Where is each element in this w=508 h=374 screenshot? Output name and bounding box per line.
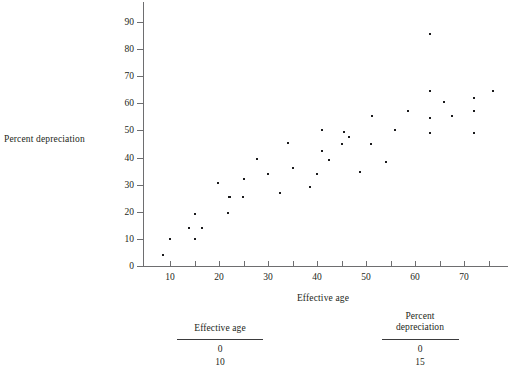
data-point [370, 143, 372, 145]
data-point [162, 254, 164, 256]
x-axis-label: Effective age [248, 293, 398, 303]
scatter-plot-figure: Percent depreciation Effective age 01020… [0, 0, 508, 310]
data-point [242, 196, 244, 198]
data-point [473, 132, 475, 134]
data-point [451, 115, 453, 117]
scatter-points-layer [0, 0, 508, 280]
data-point [407, 110, 409, 112]
data-point [279, 192, 281, 194]
table-rule-percent-depreciation [382, 339, 459, 340]
data-point [194, 238, 196, 240]
data-point [321, 150, 323, 152]
data-point [394, 129, 396, 131]
data-point [309, 186, 311, 188]
data-point [385, 161, 387, 163]
data-point [343, 131, 345, 133]
data-point [429, 90, 431, 92]
data-point [473, 110, 475, 112]
table-column-cells-effective-age: 010 [160, 343, 280, 368]
table-column-header-effective-age: Effective age [160, 323, 280, 334]
data-point [227, 212, 229, 214]
data-point [473, 97, 475, 99]
table-column-header-percent-depreciation: Percent depreciation [360, 311, 480, 333]
data-point [292, 167, 294, 169]
data-point [217, 182, 219, 184]
data-point [267, 173, 269, 175]
data-point [341, 143, 343, 145]
data-point [371, 115, 373, 117]
data-point [443, 101, 445, 103]
table-column-cells-percent-depreciation: 015 [360, 343, 480, 368]
data-point [201, 227, 203, 229]
data-point [429, 132, 431, 134]
table-cell: 0 [360, 343, 480, 356]
data-point [256, 158, 258, 160]
data-table: Effective age 010 Percent depreciation 0… [0, 316, 508, 374]
data-point [188, 227, 190, 229]
data-point [321, 129, 323, 131]
table-rule-effective-age [177, 339, 263, 340]
data-point [229, 196, 231, 198]
table-cell: 15 [360, 356, 480, 369]
data-point [328, 159, 330, 161]
data-point [169, 238, 171, 240]
table-cell: 10 [160, 356, 280, 369]
data-point [348, 136, 350, 138]
data-point [243, 178, 245, 180]
data-point [492, 90, 494, 92]
data-point [429, 117, 431, 119]
data-point [359, 171, 361, 173]
data-point [194, 213, 196, 215]
data-point [287, 142, 289, 144]
data-point [316, 173, 318, 175]
table-cell: 0 [160, 343, 280, 356]
data-point [429, 33, 431, 35]
